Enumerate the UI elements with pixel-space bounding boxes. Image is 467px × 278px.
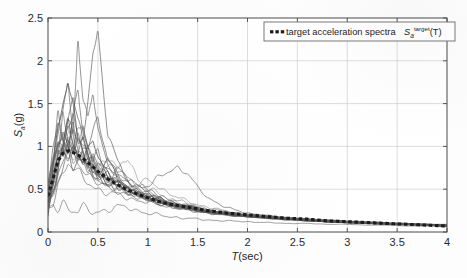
x-tick-label: 1 bbox=[145, 236, 151, 248]
y-tick-label: 1.5 bbox=[28, 98, 43, 110]
x-axis-title: T(sec) bbox=[231, 250, 262, 262]
legend-symbol-arg: (T) bbox=[430, 27, 442, 37]
x-tick-label: 3 bbox=[344, 236, 350, 248]
x-tick-label: 3.5 bbox=[389, 236, 404, 248]
y-tick-label: 2.5 bbox=[28, 12, 43, 24]
legend-label: target acceleration spectra bbox=[286, 27, 396, 37]
legend-symbol-sub: a bbox=[410, 32, 414, 39]
x-tick-label: 2 bbox=[244, 236, 250, 248]
legend-dashed-marker-icon bbox=[270, 30, 284, 33]
y-tick-label: 1 bbox=[37, 140, 43, 152]
x-tick-label: 0.5 bbox=[90, 236, 105, 248]
legend-box[interactable]: target acceleration spectra Satarget(T) bbox=[264, 22, 455, 41]
y-axis-title: Sa(g) bbox=[12, 113, 26, 137]
x-tick-label: 4 bbox=[444, 236, 450, 248]
y-tick-label: 2 bbox=[37, 55, 43, 67]
x-axis-title-unit: (sec) bbox=[238, 250, 262, 262]
figure-canvas: 00.511.522.533.54 00.511.522.5 T(sec) Sa… bbox=[0, 0, 467, 278]
x-tick-label: 1.5 bbox=[190, 236, 205, 248]
y-tick-labels: 00.511.522.5 bbox=[28, 12, 43, 238]
y-tick-label: 0.5 bbox=[28, 183, 43, 195]
y-axis-title-unit: (g) bbox=[12, 113, 24, 126]
y-tick-label: 0 bbox=[37, 226, 43, 238]
x-tick-label: 0 bbox=[45, 236, 51, 248]
x-tick-labels: 00.511.522.533.54 bbox=[45, 236, 450, 248]
x-tick-label: 2.5 bbox=[290, 236, 305, 248]
response-spectra-chart: 00.511.522.533.54 00.511.522.5 T(sec) Sa… bbox=[0, 0, 467, 278]
legend-label-text: target acceleration spectra bbox=[286, 27, 396, 37]
legend-symbol-sup: target bbox=[414, 25, 430, 32]
